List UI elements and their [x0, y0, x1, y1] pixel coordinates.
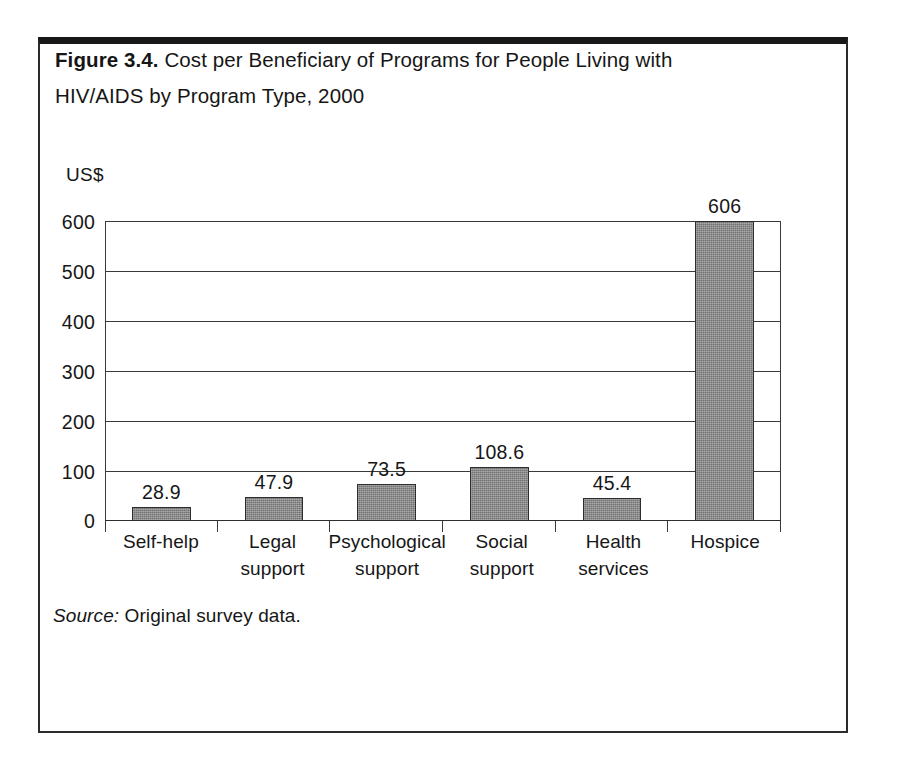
source-note: Source: Original survey data.	[53, 605, 301, 627]
bar-value-self-help: 28.9	[133, 481, 190, 504]
bar-value-psychological-support: 73.5	[358, 458, 415, 481]
y-tick-label-300: 300	[62, 361, 95, 384]
bar-social-support[interactable]: 108.6	[470, 467, 529, 521]
source-label: Source:	[53, 605, 119, 626]
bar-health-services[interactable]: 45.4	[583, 498, 642, 521]
x-axis-category-labels: Self-help Legal support Psychological su…	[105, 528, 781, 582]
bar-slot-social-support: 108.6	[443, 221, 556, 521]
x-label-social-support: Social support	[446, 528, 558, 582]
x-label-psychological-support-line1: Psychological	[328, 528, 445, 555]
figure-number-label: Figure 3.4.	[55, 48, 159, 71]
bar-slot-self-help: 28.9	[105, 221, 218, 521]
bar-slot-psychological-support: 73.5	[330, 221, 443, 521]
x-label-self-help: Self-help	[105, 528, 217, 582]
bar-value-social-support: 108.6	[471, 441, 528, 464]
bar-slot-legal-support: 47.9	[218, 221, 331, 521]
bar-legal-support[interactable]: 47.9	[245, 497, 304, 521]
bars-layer: 28.9 47.9 73.5 108.6 45.4	[105, 221, 781, 521]
x-label-legal-support-line1: Legal	[217, 528, 329, 555]
bar-slot-health-services: 45.4	[556, 221, 669, 521]
x-label-self-help-line1: Self-help	[105, 528, 217, 555]
x-label-psychological-support: Psychological support	[328, 528, 445, 582]
figure-caption: Figure 3.4. Cost per Beneficiary of Prog…	[55, 42, 755, 114]
x-label-hospice: Hospice	[669, 528, 781, 582]
bar-value-hospice: 606	[696, 195, 753, 218]
source-text: Original survey data.	[119, 605, 301, 626]
y-axis-unit-label: US$	[66, 164, 104, 186]
y-tick-label-600: 600	[62, 211, 95, 234]
x-label-social-support-line2: support	[446, 555, 558, 582]
x-label-psychological-support-line2: support	[328, 555, 445, 582]
x-label-social-support-line1: Social	[446, 528, 558, 555]
x-label-health-services-line2: services	[558, 555, 670, 582]
x-label-legal-support-line2: support	[217, 555, 329, 582]
bar-value-legal-support: 47.9	[246, 471, 303, 494]
y-tick-label-400: 400	[62, 310, 95, 333]
bar-psychological-support[interactable]: 73.5	[357, 484, 416, 521]
y-tick-label-500: 500	[62, 261, 95, 284]
y-tick-label-200: 200	[62, 411, 95, 434]
y-tick-label-100: 100	[62, 460, 95, 483]
x-label-health-services-line1: Health	[558, 528, 670, 555]
y-tick-label-0: 0	[84, 510, 95, 533]
x-label-hospice-line1: Hospice	[669, 528, 781, 555]
bar-value-health-services: 45.4	[584, 472, 641, 495]
chart-plot-area: 600 500 400 300 200 100 0 28.9 47.9	[105, 221, 781, 521]
x-label-legal-support: Legal support	[217, 528, 329, 582]
bar-hospice[interactable]: 606	[695, 221, 754, 521]
x-label-health-services: Health services	[558, 528, 670, 582]
bar-slot-hospice: 606	[668, 221, 781, 521]
bar-self-help[interactable]: 28.9	[132, 507, 191, 521]
